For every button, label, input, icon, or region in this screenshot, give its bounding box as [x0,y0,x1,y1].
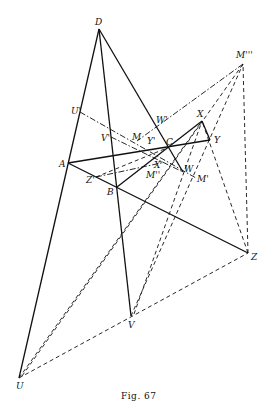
label-Xprime: X' [153,160,163,170]
label-B: B [106,187,114,197]
label-A: A [58,159,66,169]
line-V-X [134,121,202,314]
label-Yprime: Y' [147,136,155,146]
label-Wprime: W' [156,115,168,125]
label-Uprime: U' [71,106,81,116]
label-W: W [184,164,194,174]
label-M: M [131,132,142,142]
label-D: D [94,17,102,27]
label-Mprime: M' [196,174,209,184]
dashed-lines [19,64,248,378]
line-Z-Mppp [243,64,248,253]
line-Mppp-M [137,64,243,141]
label-Vprime: V' [101,133,110,143]
label-X: X [196,109,204,119]
label-Z: Z [250,252,258,262]
point-labels: D M''' U' W' X V' M Y' C Y A X' W M'' M'… [16,17,258,391]
label-Y: Y [214,135,221,145]
line-U-Z [19,253,248,378]
label-Mppp: M''' [235,50,253,60]
label-Zprime: Z' [85,175,95,185]
label-U: U [16,381,24,391]
label-V: V [128,320,136,330]
line-U-X [19,121,202,378]
geometry-figure: D M''' U' W' X V' M Y' C Y A X' W M'' M'… [0,0,275,416]
label-Mpp: M'' [145,170,160,180]
line-D-U [19,29,99,378]
figure-caption: Fig. 67 [121,391,157,401]
label-C: C [166,137,173,147]
